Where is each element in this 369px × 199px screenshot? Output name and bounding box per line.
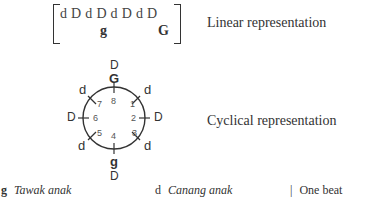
legend-symbol-g: g xyxy=(1,183,7,197)
legend-symbol-d: d xyxy=(155,183,161,197)
beat-number-4: 4 xyxy=(111,131,116,141)
outer-label-2: D xyxy=(154,110,163,124)
beat-number-3: 3 xyxy=(132,128,137,138)
legend-text-beat: One beat xyxy=(299,183,342,197)
legend-item-tawak: g Tawak anak xyxy=(1,183,71,198)
legend-text-canang: Canang anak xyxy=(168,183,232,197)
beat-number-8: 8 xyxy=(111,96,116,106)
outer-label-5: d xyxy=(78,138,85,153)
legend-item-beat: | One beat xyxy=(290,183,342,198)
beat-number-5: 5 xyxy=(97,128,102,138)
top-inner-label: G xyxy=(109,71,119,86)
outer-label-6: D xyxy=(67,110,76,124)
legend-text-tawak: Tawak anak xyxy=(14,183,71,197)
beat-number-1: 1 xyxy=(130,99,135,109)
beat-number-7: 7 xyxy=(97,99,102,109)
outer-label-3: d xyxy=(144,138,151,153)
outer-label-7: d xyxy=(79,82,86,97)
beat-number-2: 2 xyxy=(131,113,136,123)
beat-number-6: 6 xyxy=(93,113,98,123)
cycle-diagram xyxy=(0,0,369,199)
legend-item-canang: d Canang anak xyxy=(155,183,232,198)
bottom-inner-label: g xyxy=(110,154,118,169)
legend-symbol-beat: | xyxy=(290,183,292,197)
top-outer-label: D xyxy=(110,58,119,72)
outer-label-1: d xyxy=(144,82,151,97)
cyclical-label: Cyclical representation xyxy=(207,113,336,129)
bottom-outer-label: D xyxy=(110,169,119,183)
